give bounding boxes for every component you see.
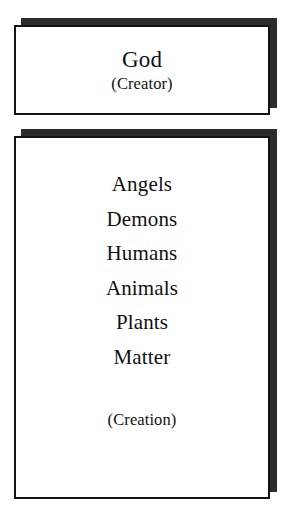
creator-box-content: God (Creator) [16, 27, 268, 113]
creation-box: Angels Demons Humans Animals Plants Matt… [14, 136, 270, 499]
list-item: Angels [106, 167, 178, 202]
creation-caption: (Creation) [108, 409, 177, 431]
list-item: Plants [106, 305, 178, 340]
list-item: Humans [106, 236, 178, 271]
creator-caption: (Creator) [111, 73, 172, 95]
diagram-canvas: God (Creator) Angels Demons Humans Anima… [0, 0, 292, 515]
creation-list: Angels Demons Humans Animals Plants Matt… [106, 167, 178, 374]
creator-box: God (Creator) [14, 25, 270, 115]
list-item: Demons [106, 202, 178, 237]
list-item: Matter [106, 340, 178, 375]
creation-box-content: Angels Demons Humans Animals Plants Matt… [16, 138, 268, 497]
list-item: Animals [106, 271, 178, 306]
creator-title: God [122, 46, 162, 73]
